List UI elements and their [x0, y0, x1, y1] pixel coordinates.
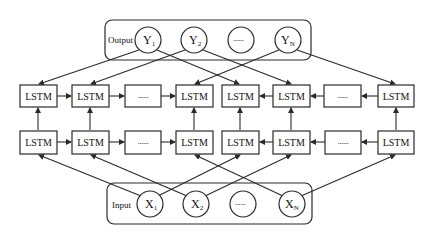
- lstm-bottom-backward-2: LSTM: [273, 131, 310, 154]
- input-node-ellipsis: ......: [230, 191, 256, 217]
- input-node-x1: X1: [137, 191, 163, 217]
- lstm-bottom-forward-1: LSTM: [20, 131, 57, 154]
- lstm-bottom-backward-ellipsis: ......: [325, 131, 361, 154]
- output-node-y1: Y1: [135, 27, 161, 53]
- svg-text:......: ......: [338, 136, 349, 146]
- lstm-bottom-forward-n: LSTM: [176, 131, 213, 154]
- lstm-bottom-backward-1: LSTM: [222, 131, 259, 154]
- svg-text:......: ......: [138, 90, 149, 100]
- output-edges: [39, 50, 395, 84]
- bilstm-diagram: Output Y1 Y2 ...... YN LSTM LSTM ...... …: [0, 0, 433, 239]
- input-node-xn: XN: [279, 191, 305, 217]
- output-label: Output: [108, 35, 134, 45]
- vertical-edges: [38, 108, 396, 130]
- svg-text:......: ......: [233, 33, 244, 43]
- input-group: Input X1 X2 ...... XN: [107, 183, 312, 224]
- svg-text:LSTM: LSTM: [77, 91, 104, 102]
- output-node-ellipsis: ......: [228, 27, 254, 53]
- input-label: Input: [112, 200, 131, 210]
- svg-text:LSTM: LSTM: [25, 91, 52, 102]
- lstm-bottom-forward-ellipsis: ......: [125, 131, 161, 154]
- svg-text:LSTM: LSTM: [227, 91, 254, 102]
- input-edges: [39, 155, 395, 196]
- output-group: Output Y1 Y2 ...... YN: [105, 20, 311, 60]
- lstm-top-forward-ellipsis: ......: [125, 85, 161, 107]
- lstm-top-backward-ellipsis: ......: [324, 85, 361, 107]
- svg-text:......: ......: [235, 197, 246, 207]
- lstm-top-forward-1: LSTM: [20, 85, 57, 107]
- output-node-y2: Y2: [181, 27, 207, 53]
- lstm-top-backward-n: LSTM: [378, 85, 414, 107]
- top-row: LSTM LSTM ...... LSTM LSTM LSTM ...... L…: [20, 85, 414, 107]
- svg-text:LSTM: LSTM: [77, 137, 104, 148]
- output-node-yn: YN: [275, 27, 301, 53]
- svg-text:LSTM: LSTM: [25, 137, 52, 148]
- lstm-bottom-backward-n: LSTM: [378, 131, 414, 154]
- lstm-top-backward-1: LSTM: [222, 85, 259, 107]
- lstm-top-forward-2: LSTM: [72, 85, 109, 107]
- lstm-bottom-forward-2: LSTM: [72, 131, 109, 154]
- svg-text:LSTM: LSTM: [383, 137, 410, 148]
- lstm-top-backward-2: LSTM: [273, 85, 310, 107]
- svg-text:......: ......: [138, 136, 149, 146]
- svg-text:LSTM: LSTM: [181, 137, 208, 148]
- svg-text:LSTM: LSTM: [278, 137, 305, 148]
- bottom-row: LSTM LSTM ...... LSTM LSTM LSTM ...... L…: [20, 131, 414, 154]
- svg-text:......: ......: [337, 90, 348, 100]
- lstm-top-forward-n: LSTM: [176, 85, 213, 107]
- svg-text:LSTM: LSTM: [383, 91, 410, 102]
- svg-text:LSTM: LSTM: [278, 91, 305, 102]
- input-node-x2: X2: [183, 191, 209, 217]
- svg-text:LSTM: LSTM: [181, 91, 208, 102]
- svg-text:LSTM: LSTM: [227, 137, 254, 148]
